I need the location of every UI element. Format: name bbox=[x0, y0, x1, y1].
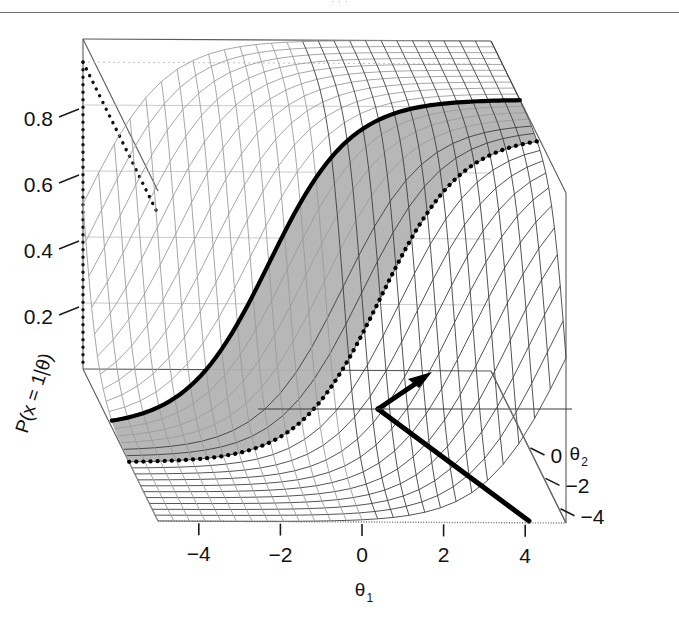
y-axis-tick-0 bbox=[531, 448, 545, 455]
x-axis-title: θ1 bbox=[355, 579, 374, 605]
z-axis-tick-3 bbox=[59, 307, 79, 315]
surface-mesh bbox=[83, 41, 566, 522]
box-dotted-top-edge bbox=[83, 62, 158, 214]
y-axis-tick-1 bbox=[546, 478, 560, 485]
tangent-line bbox=[378, 409, 529, 521]
z-axis-tick-label-0: 0.8 bbox=[24, 107, 53, 130]
x-axis-tick-label-3: 2 bbox=[438, 543, 450, 566]
z-axis-tick-label-3: 0.2 bbox=[24, 305, 53, 328]
x-axis-title-subscript: 1 bbox=[366, 591, 373, 605]
x-axis-tick-label-2: 0 bbox=[356, 543, 368, 566]
y-axis-title: θ2 bbox=[570, 443, 589, 469]
z-axis-tick-1 bbox=[59, 175, 79, 183]
y-axis-tick-label-2: −4 bbox=[581, 505, 605, 528]
surface-plot-3d: −4−2024θ10−2−4θ20.80.60.40.2P(x = 1|θ) bbox=[0, 0, 679, 630]
x-axis-tick-label-4: 4 bbox=[519, 544, 531, 567]
x-axis-tick-label-0: −4 bbox=[187, 542, 211, 565]
z-axis-title: P(x = 1|θ) bbox=[11, 350, 56, 435]
x-axis-tick-label-1: −2 bbox=[268, 543, 292, 566]
y-axis-tick-2 bbox=[561, 509, 575, 516]
y-axis-tick-label-1: −2 bbox=[566, 474, 590, 497]
y-axis-title-subscript: 2 bbox=[581, 455, 588, 469]
mesh-line-v-25 bbox=[475, 41, 550, 389]
z-axis-tick-0 bbox=[59, 109, 79, 117]
y-axis-tick-label-0: 0 bbox=[551, 444, 563, 467]
z-axis-tick-2 bbox=[59, 241, 79, 249]
z-axis-tick-label-1: 0.6 bbox=[24, 173, 53, 196]
mesh-line-v-1 bbox=[99, 173, 174, 521]
z-axis-tick-label-2: 0.4 bbox=[24, 239, 54, 262]
grid-line-top-dotted bbox=[83, 62, 491, 64]
figure-page: · · · −4−2024θ10−2−4θ20.80.60.40.2P(x = … bbox=[0, 0, 679, 630]
